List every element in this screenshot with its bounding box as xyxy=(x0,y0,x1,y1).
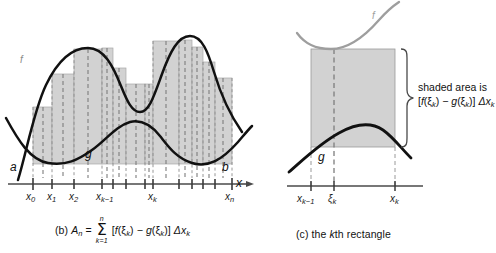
caption-b-xi-f-close: ) xyxy=(130,224,134,236)
caption-b-bracket-close: ] xyxy=(168,224,171,236)
tick-label-x2: x2 xyxy=(69,191,78,204)
tick-sub: k−1 xyxy=(302,197,314,206)
tick-sub: 2 xyxy=(74,195,78,204)
caption-c-prefix: (c) the xyxy=(296,228,329,240)
panel-c-curve-f-label: f xyxy=(372,10,375,21)
figure-container: f g a b x x0 x1 x2 xk−1 xk xn (b) An = n… xyxy=(0,0,496,253)
tick-label-x1: x1 xyxy=(47,191,56,204)
panel-b-endpoint-a-label: a xyxy=(10,160,17,174)
panel-b-endpoint-b-label: b xyxy=(222,160,229,174)
caption-b-xi-g: (ξ xyxy=(152,224,160,236)
caption-b-xi-f: (ξ xyxy=(118,224,126,236)
tick-sub: k xyxy=(332,197,336,206)
summation-symbol-group: n Σ k=1 xyxy=(96,215,108,245)
shaded-area-annotation-line2: [f(ξk) − g(ξk)] Δxk xyxy=(418,95,494,109)
annotation-bracket-close: ] xyxy=(473,95,476,107)
tick-sub: k−1 xyxy=(101,195,113,204)
annotation-xi-f: (ξ xyxy=(424,95,432,107)
panel-b-caption: (b) An = n Σ k=1 [f(ξk) − g(ξk)] Δxk xyxy=(55,216,190,246)
caption-b-delta: Δx xyxy=(174,224,187,236)
caption-b-A-sub: n xyxy=(78,229,82,238)
annotation-xi-f-close: ) xyxy=(436,95,440,107)
sum-lower-limit: k=1 xyxy=(96,237,108,245)
panel-b-graphic xyxy=(0,0,258,210)
tick-sub: k xyxy=(395,197,399,206)
panel-c-tick-label-xk-1: xk−1 xyxy=(297,193,314,206)
panel-c-curve-g-label: g xyxy=(318,150,325,164)
kth-rectangle-shade xyxy=(311,49,395,147)
caption-b-prefix: (b) xyxy=(55,224,68,236)
tick-sub: 0 xyxy=(31,195,35,204)
panel-b-curve-g-label: g xyxy=(85,147,92,161)
tick-sub: 1 xyxy=(52,195,56,204)
panel-c-caption: (c) the kth rectangle xyxy=(296,228,391,240)
tick-label-xn: xn xyxy=(225,191,234,204)
tick-label-xk: xk xyxy=(148,191,157,204)
tick-label-x0: x0 xyxy=(26,191,35,204)
annotation-minus: − xyxy=(442,95,448,107)
shaded-area-annotation-line1: shaded area is xyxy=(418,81,487,93)
annotation-delta-sub: k xyxy=(491,100,495,109)
tick-sub: n xyxy=(230,195,234,204)
sigma-icon: Σ xyxy=(96,222,108,237)
brace-icon xyxy=(401,49,413,147)
caption-c-suffix: th rectangle xyxy=(335,228,391,240)
caption-b-delta-sub: k xyxy=(186,229,190,238)
annotation-delta: Δx xyxy=(478,95,490,107)
panel-c-curve-f xyxy=(297,2,399,49)
panel-c-tick-label-xi-k: ξk xyxy=(328,193,336,206)
panel-c-tick-label-xk: xk xyxy=(390,193,399,206)
tick-sub: k xyxy=(153,195,157,204)
caption-b-minus: − xyxy=(137,224,143,236)
panel-b-axis-label-x: x xyxy=(236,176,242,190)
caption-b-equals: = xyxy=(86,224,92,236)
tick-label-xk-1: xk−1 xyxy=(96,191,113,204)
panel-b-curve-f-label: f xyxy=(20,54,23,65)
